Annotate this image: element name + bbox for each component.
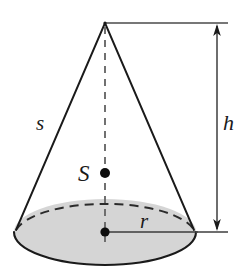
center-point-marker — [100, 168, 110, 178]
cone-figure: s S h r — [0, 0, 243, 271]
base-center-marker — [100, 227, 109, 236]
radius-label: r — [140, 209, 149, 233]
apex-point-marker — [103, 21, 106, 24]
cone-diagram: s S h r — [0, 0, 243, 271]
height-label: h — [223, 110, 234, 135]
center-point-label: S — [78, 161, 90, 186]
slant-label: s — [36, 111, 44, 135]
